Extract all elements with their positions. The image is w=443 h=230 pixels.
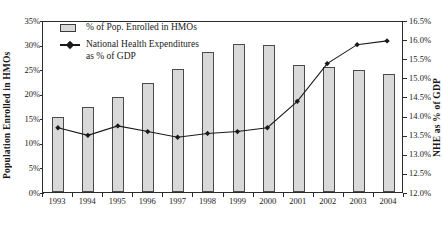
line-marker [235, 129, 240, 134]
y-axis-left-ticks: 0%5%10%15%20%25%30%35% [14, 0, 40, 230]
y-axis-left-title-text: Population Enrolled in HMOs [2, 51, 12, 178]
y-axis-right-tick-label: 16.5% [409, 17, 431, 26]
chart-legend: % of Pop. Enrolled in HMOs National Heal… [60, 22, 199, 68]
y-axis-left-tick-label: 10% [24, 139, 40, 148]
y-axis-left-tick-label: 20% [24, 90, 40, 99]
y-axis-left-tick-label: 30% [24, 41, 40, 50]
y-axis-right-ticks: 12.0%12.5%13.0%13.5%14.0%14.5%15.0%15.5%… [403, 0, 433, 230]
bar-swatch-icon [60, 24, 76, 32]
x-axis-tick-label: 2002 [319, 196, 336, 206]
x-axis-tick-label: 2001 [289, 196, 306, 206]
legend-line-swatch-wrap [60, 39, 86, 49]
y-axis-left-tick-label: 25% [24, 66, 40, 75]
x-axis-tick-label: 2003 [349, 196, 366, 206]
y-axis-right-tickmark [403, 21, 407, 22]
x-axis-tick-label: 2000 [259, 196, 276, 206]
y-axis-right-tick-label: 15.0% [409, 74, 431, 83]
y-axis-right-tick-label: 15.5% [409, 55, 431, 64]
y-axis-right-tick-label: 16.0% [409, 36, 431, 45]
line-marker [354, 42, 359, 47]
x-axis-tick-label: 1999 [229, 196, 246, 206]
y-axis-right-tick-label: 12.0% [409, 189, 431, 198]
x-axis-tick-label: 1994 [79, 196, 96, 206]
line-swatch-marker [66, 41, 74, 49]
line-marker [145, 129, 150, 134]
x-axis-tick-label: 1995 [109, 196, 126, 206]
legend-label-bars: % of Pop. Enrolled in HMOs [86, 22, 197, 34]
y-axis-right-tickmark [403, 78, 407, 79]
y-axis-left-title: Population Enrolled in HMOs [2, 40, 12, 190]
chart-container: Population Enrolled in HMOs NHE as % of … [0, 0, 443, 230]
y-axis-right-tickmark [403, 136, 407, 137]
y-axis-right-title: NHE as % of GDP [432, 45, 442, 190]
x-axis-tickmark [403, 193, 404, 197]
y-axis-right-tickmark [403, 40, 407, 41]
legend-item-bars: % of Pop. Enrolled in HMOs [60, 22, 199, 34]
y-axis-left-tick-label: 0% [29, 189, 40, 198]
line-marker [55, 125, 60, 130]
x-axis-tick-label: 1993 [49, 196, 66, 206]
legend-bar-swatch-wrap [60, 22, 86, 32]
line-marker [115, 123, 120, 128]
x-axis-tick-label: 1997 [169, 196, 186, 206]
legend-label-line: National Health Expenditures as % of GDP [86, 39, 199, 63]
y-axis-right-tickmark [403, 97, 407, 98]
y-axis-left-tick-label: 35% [24, 17, 40, 26]
y-axis-left-tick-label: 5% [29, 164, 40, 173]
y-axis-right-title-text: NHE as % of GDP [432, 78, 442, 157]
y-axis-right-tick-label: 12.5% [409, 169, 431, 178]
y-axis-right-tick-label: 13.5% [409, 131, 431, 140]
y-axis-right-tick-label: 14.0% [409, 112, 431, 121]
line-diamond-icon [60, 41, 80, 49]
y-axis-right-tickmark [403, 117, 407, 118]
x-axis-tick-label: 1998 [199, 196, 216, 206]
y-axis-right-tickmark [403, 155, 407, 156]
line-marker [175, 135, 180, 140]
y-axis-left-tick-label: 15% [24, 115, 40, 124]
y-axis-right-tickmark [403, 59, 407, 60]
legend-item-line: National Health Expenditures as % of GDP [60, 39, 199, 63]
line-marker [384, 38, 389, 43]
line-marker [205, 131, 210, 136]
y-axis-right-tickmark [403, 174, 407, 175]
y-axis-right-tick-label: 14.5% [409, 93, 431, 102]
x-axis-labels: 1993199419951996199719981999200020012002… [42, 196, 403, 212]
line-marker [85, 133, 90, 138]
x-axis-tick-label: 2004 [379, 196, 396, 206]
y-axis-right-tick-label: 13.0% [409, 150, 431, 159]
x-axis-tick-label: 1996 [139, 196, 156, 206]
